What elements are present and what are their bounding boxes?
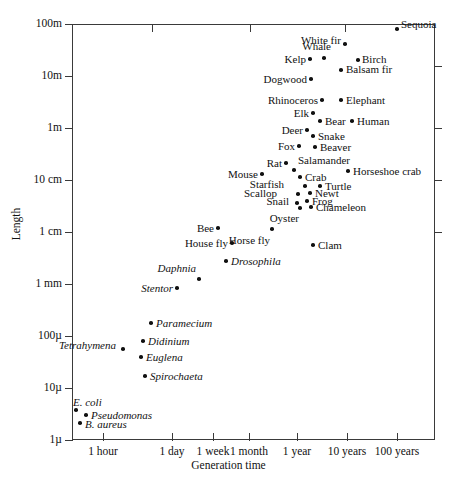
data-point [216, 226, 220, 230]
data-point-label: B. aureus [85, 419, 127, 430]
y-tick-label: 1 cm [18, 226, 62, 237]
data-point [313, 145, 317, 149]
data-point [320, 98, 324, 102]
x-tick-mark [103, 433, 104, 441]
y-tick-mark-right [434, 128, 442, 129]
x-axis-title: Generation time [0, 459, 457, 471]
data-point-label: Horse fly [229, 235, 270, 246]
data-point [318, 119, 322, 123]
data-point-label: House fly [185, 238, 228, 249]
data-point-label: Beaver [320, 142, 351, 153]
data-point-label: Daphnia [158, 263, 197, 274]
data-point [339, 98, 343, 102]
data-point [346, 169, 350, 173]
data-point-label: Dogwood [264, 74, 307, 85]
y-tick-mark-right [434, 66, 442, 67]
x-tick-mark-top [345, 24, 346, 32]
y-tick-mark [65, 24, 73, 25]
y-tick-label: 1µ [18, 434, 62, 445]
x-tick-mark-top [152, 24, 153, 32]
data-point [230, 241, 234, 245]
data-point [224, 259, 228, 263]
data-point [298, 175, 302, 179]
y-tick-mark [65, 76, 73, 77]
data-point [298, 206, 302, 210]
data-point [292, 168, 296, 172]
data-point-label: Rhinoceros [268, 95, 318, 106]
data-point [284, 161, 288, 165]
data-point [309, 205, 313, 209]
y-tick-label: 10 cm [18, 174, 62, 185]
data-point [149, 321, 153, 325]
data-point-label: Bear [325, 116, 346, 127]
data-point [343, 42, 347, 46]
data-point [308, 57, 312, 61]
data-point [121, 347, 125, 351]
data-point-label: Sequoia [401, 19, 436, 30]
data-point [305, 199, 309, 203]
data-point [305, 128, 309, 132]
scatter-plot: 100m10m1m10 cm1 cm1 mm100µ10µ1µ 1 hour1 … [0, 0, 457, 485]
data-point-label: Crab [305, 172, 326, 183]
data-point [143, 374, 147, 378]
y-tick-label: 1 mm [18, 278, 62, 289]
y-tick-label: 10m [18, 70, 62, 81]
data-point [356, 58, 360, 62]
y-tick-label: 100µ [18, 330, 62, 341]
data-point [311, 134, 315, 138]
data-point-label: Chameleon [316, 202, 366, 213]
data-point-label: E. coli [73, 397, 102, 408]
data-point [311, 111, 315, 115]
y-tick-label: 10µ [18, 382, 62, 393]
data-point-label: Balsam fir [346, 64, 392, 75]
x-tick-mark [347, 433, 348, 441]
data-point [395, 27, 399, 31]
y-tick-mark [65, 440, 73, 441]
x-tick-mark [397, 433, 398, 441]
y-tick-mark [65, 128, 73, 129]
data-point-label: Spirochaeta [150, 371, 203, 382]
data-point [78, 421, 82, 425]
data-point [296, 192, 300, 196]
data-point-label: Paramecium [156, 318, 212, 329]
y-tick-label: 1m [18, 122, 62, 133]
data-point-label: Drosophila [231, 256, 281, 267]
data-point [322, 56, 326, 60]
data-point [260, 172, 264, 176]
data-point [74, 408, 78, 412]
y-tick-mark [65, 284, 73, 285]
data-point-label: Fox [278, 141, 295, 152]
y-tick-label: 100m [18, 18, 62, 29]
y-tick-mark-right [434, 232, 442, 233]
data-point-label: Snail [266, 196, 289, 207]
data-point-label: Salamander [298, 155, 350, 166]
data-point-label: Bee [197, 223, 214, 234]
data-point [141, 339, 145, 343]
data-point [350, 119, 354, 123]
x-tick-mark [297, 433, 298, 441]
data-point [311, 243, 315, 247]
y-tick-mark [65, 232, 73, 233]
y-axis-title: Length [10, 194, 22, 254]
x-tick-mark [213, 433, 214, 441]
x-tick-mark-top [250, 24, 251, 32]
data-point-label: Elephant [346, 95, 385, 106]
data-point-label: Human [357, 116, 389, 127]
data-point-label: Horseshoe crab [353, 166, 421, 177]
x-tick-label: 1 hour [63, 445, 143, 457]
x-tick-mark [249, 433, 250, 441]
data-point-label: Didinium [148, 336, 190, 347]
data-point-label: Whale [302, 41, 331, 52]
data-point [297, 144, 301, 148]
y-tick-mark-right [434, 180, 442, 181]
x-tick-label: 100 years [357, 445, 437, 457]
data-point [339, 68, 343, 72]
data-point-label: Kelp [285, 54, 306, 65]
y-tick-mark [65, 336, 73, 337]
plot-frame [72, 24, 435, 440]
y-tick-mark [65, 180, 73, 181]
data-point [295, 201, 299, 205]
data-point-label: Clam [318, 240, 342, 251]
data-point-label: Tetrahymena [59, 340, 116, 351]
data-point-label: Oyster [270, 213, 299, 224]
